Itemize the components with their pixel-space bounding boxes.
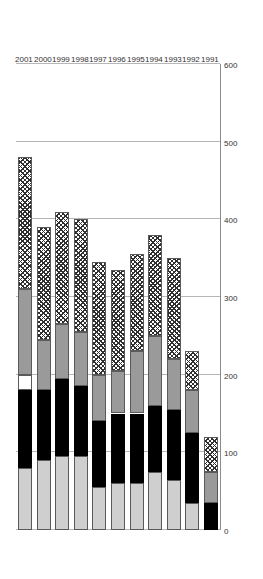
segment-physics-2000	[37, 340, 51, 390]
segment-physics-1996	[111, 371, 125, 414]
bar-1997	[92, 64, 106, 530]
segment-engin-2001	[18, 157, 32, 289]
segment-chemistry-1998	[74, 456, 88, 530]
segment-chemistry-1992	[185, 503, 199, 530]
segment-biology-1997	[92, 421, 106, 487]
bar-1996	[111, 64, 125, 530]
bar-1992	[185, 64, 199, 530]
segment-engin-1991	[204, 437, 218, 472]
segment-chemistry-1993	[167, 480, 181, 530]
segment-biology-2000	[37, 390, 51, 460]
segment-engin-1993	[167, 258, 181, 359]
segment-physics-1998	[74, 332, 88, 386]
year-label-1996: 1996	[108, 55, 126, 64]
year-label-1992: 1992	[182, 55, 200, 64]
bar-1993	[167, 64, 181, 530]
segment-physics-1994	[148, 336, 162, 406]
segment-biology-1994	[148, 406, 162, 472]
year-label-2000: 2000	[34, 55, 52, 64]
segment-engin-1998	[74, 219, 88, 332]
bar-1995	[130, 64, 144, 530]
segment-chemistry-1995	[130, 483, 144, 530]
segment-biology-1993	[167, 410, 181, 480]
bar-1994	[148, 64, 162, 530]
year-label-1999: 1999	[52, 55, 70, 64]
bar-1999	[55, 64, 69, 530]
x-tick-label-300: 300	[224, 294, 237, 303]
segment-biology-1992	[185, 433, 199, 503]
bar-2001	[18, 64, 32, 530]
year-label-1994: 1994	[145, 55, 163, 64]
segment-engin-1997	[92, 262, 106, 375]
x-tick-label-100: 100	[224, 449, 237, 458]
rotated-chart-frame: 0100200300400500600 19911992199319941995…	[0, 0, 263, 579]
segment-physics-1991	[204, 472, 218, 503]
bar-1991	[204, 64, 218, 530]
segment-physics-1997	[92, 375, 106, 422]
segment-engin-1996	[111, 270, 125, 371]
segment-chemistry-2001	[18, 468, 32, 530]
segment-physics-1999	[55, 324, 69, 378]
segment-chemistry-1994	[148, 472, 162, 530]
segment-biology-1995	[130, 414, 144, 484]
segment-biology-2001	[18, 390, 32, 468]
segment-math-2001	[18, 375, 32, 391]
year-label-1993: 1993	[164, 55, 182, 64]
segment-biology-1996	[111, 414, 125, 484]
year-label-1995: 1995	[127, 55, 145, 64]
x-tick-label-0: 0	[224, 527, 228, 536]
segment-engin-1999	[55, 212, 69, 325]
year-label-1991: 1991	[201, 55, 219, 64]
chart-canvas: 0100200300400500600 19911992199319941995…	[0, 0, 263, 579]
segment-biology-1999	[55, 379, 69, 457]
year-label-1998: 1998	[71, 55, 89, 64]
x-tick-label-500: 500	[224, 139, 237, 148]
segment-chemistry-1997	[92, 487, 106, 530]
segment-biology-1991	[204, 503, 218, 530]
segment-chemistry-1999	[55, 456, 69, 530]
x-tick-label-400: 400	[224, 216, 237, 225]
bar-2000	[37, 64, 51, 530]
year-label-2001: 2001	[15, 55, 33, 64]
x-tick-label-600: 600	[224, 61, 237, 70]
segment-engin-1995	[130, 254, 144, 351]
segment-engin-2000	[37, 227, 51, 340]
segment-chemistry-1996	[111, 483, 125, 530]
segment-physics-1993	[167, 359, 181, 409]
segment-biology-1998	[74, 386, 88, 456]
segment-physics-1992	[185, 390, 199, 433]
segment-chemistry-2000	[37, 460, 51, 530]
segment-engin-1992	[185, 351, 199, 390]
x-axis-line	[220, 64, 221, 530]
segment-physics-1995	[130, 351, 144, 413]
year-label-1997: 1997	[89, 55, 107, 64]
x-tick-label-200: 200	[224, 372, 237, 381]
bar-1998	[74, 64, 88, 530]
segment-engin-1994	[148, 235, 162, 336]
segment-physics-2001	[18, 289, 32, 374]
